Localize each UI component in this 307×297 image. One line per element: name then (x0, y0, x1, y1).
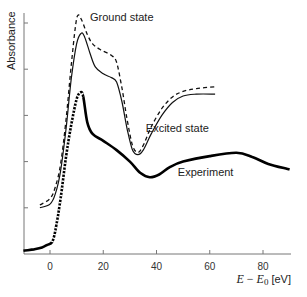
ground-state-label: Ground state (90, 11, 154, 23)
x-tick-label: 20 (98, 261, 110, 272)
xas-absorbance-chart: 020406080 Absorbance Ground state Excite… (0, 0, 307, 297)
y-axis-ticks (24, 23, 28, 208)
y-axis-label: Absorbance (5, 11, 17, 70)
excited-state-label: Excited state (146, 122, 209, 134)
x-tick-label: 40 (151, 261, 163, 272)
x-axis-label: E − E0 [eV] (235, 272, 291, 287)
x-tick-label: 80 (257, 261, 269, 272)
x-tick-label: 0 (47, 261, 53, 272)
experiment-label: Experiment (178, 166, 234, 178)
x-axis-ticks: 020406080 (47, 250, 269, 272)
x-tick-label: 60 (204, 261, 216, 272)
experiment-curve (23, 92, 289, 251)
